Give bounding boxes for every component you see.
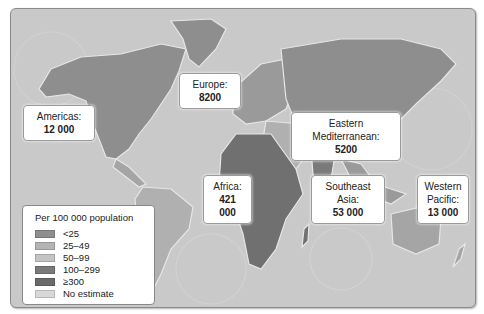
legend-label: ≥300 bbox=[63, 276, 84, 287]
region-label-western-pacific: Western Pacific: 13 000 bbox=[417, 175, 469, 224]
legend-swatch bbox=[35, 230, 55, 238]
legend: Per 100 000 population <25 25–49 50–99 1… bbox=[22, 205, 155, 305]
legend-swatch bbox=[35, 242, 55, 250]
legend-item: 50–99 bbox=[35, 252, 89, 263]
region-label-southeast-asia: Southeast Asia: 53 000 bbox=[311, 175, 385, 224]
legend-swatch bbox=[35, 290, 55, 298]
legend-item: No estimate bbox=[35, 288, 114, 299]
region-new-zealand bbox=[453, 244, 465, 267]
region-value: 13 000 bbox=[424, 206, 462, 219]
legend-item: ≥300 bbox=[35, 276, 84, 287]
region-label-europe: Europe: 8200 bbox=[179, 73, 241, 109]
region-name: Americas: bbox=[30, 110, 88, 123]
region-name: Africa: bbox=[210, 180, 245, 193]
region-label-eastern-mediterranean: Eastern Mediterranean: 5200 bbox=[291, 112, 401, 161]
legend-title: Per 100 000 population bbox=[35, 212, 133, 223]
region-madagascar bbox=[302, 224, 309, 247]
region-name: Southeast Asia: bbox=[318, 180, 378, 206]
legend-item: 100–299 bbox=[35, 264, 100, 275]
region-value: 53 000 bbox=[318, 206, 378, 219]
region-north-america bbox=[39, 44, 186, 159]
region-name: Europe: bbox=[186, 78, 234, 91]
legend-item: 25–49 bbox=[35, 240, 89, 251]
legend-label: No estimate bbox=[63, 288, 114, 299]
region-value: 5200 bbox=[298, 143, 394, 156]
region-value: 8200 bbox=[186, 91, 234, 104]
region-name-line1: Western bbox=[424, 180, 462, 193]
legend-swatch bbox=[35, 254, 55, 262]
legend-label: <25 bbox=[63, 228, 79, 239]
region-value: 421 000 bbox=[210, 193, 245, 219]
legend-label: 100–299 bbox=[63, 264, 100, 275]
legend-label: 25–49 bbox=[63, 240, 89, 251]
legend-swatch bbox=[35, 278, 55, 286]
region-label-americas: Americas: 12 000 bbox=[23, 105, 95, 141]
map-frame: Americas: 12 000 Europe: 8200 Eastern Me… bbox=[10, 8, 476, 308]
legend-label: 50–99 bbox=[63, 252, 89, 263]
region-central-america bbox=[113, 159, 146, 187]
region-label-africa: Africa: 421 000 bbox=[203, 175, 252, 224]
legend-swatch bbox=[35, 266, 55, 274]
region-name-line2: Pacific: bbox=[424, 193, 462, 206]
region-name: Eastern Mediterranean: bbox=[298, 117, 394, 143]
region-value: 12 000 bbox=[30, 123, 88, 136]
legend-item: <25 bbox=[35, 228, 79, 239]
